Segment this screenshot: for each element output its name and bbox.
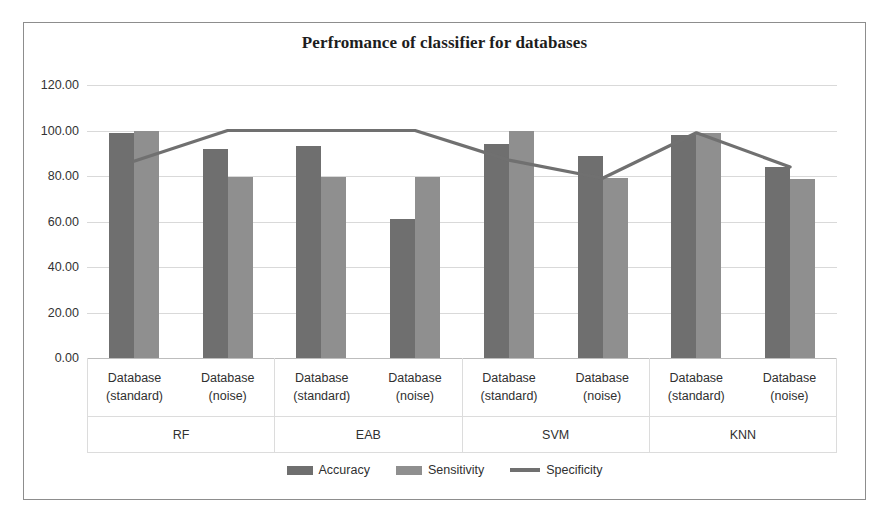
y-axis-tick-label: 100.00 [25,124,87,138]
legend-item-sensitivity[interactable]: Sensitivity [396,463,484,477]
category-label-line1: Database [670,369,724,387]
category-axis: Database(standard)Database(noise)RFDatab… [87,358,837,453]
legend-bar-swatch-dark-icon [287,466,313,475]
category-label: Database(noise) [181,358,274,416]
category-group-rf: Database(standard)Database(noise)RF [88,358,275,452]
category-label: Database(noise) [368,358,461,416]
category-label: Database(noise) [743,358,836,416]
y-axis-tick-label: 20.00 [25,306,87,320]
legend-item-accuracy[interactable]: Accuracy [287,463,370,477]
legend-label: Accuracy [319,463,370,477]
category-label-line1: Database [201,369,255,387]
category-label: Database(standard) [88,358,181,416]
specificity-line-layer [87,85,837,358]
chart-legend: AccuracySensitivitySpecificity [24,463,865,477]
category-label-line1: Database [763,369,817,387]
category-label-line1: Database [575,369,629,387]
category-label-line2: (noise) [396,387,434,405]
y-axis-tick-label: 60.00 [25,215,87,229]
y-axis-tick-labels: 120.00100.0080.0060.0040.0020.000.00 [24,85,87,358]
category-label-line2: (standard) [293,387,350,405]
category-label: Database(noise) [556,358,649,416]
category-group-knn: Database(standard)Database(noise)KNN [650,358,836,452]
category-label-line2: (noise) [770,387,808,405]
legend-label: Specificity [546,463,602,477]
group-label: KNN [650,416,836,452]
category-label: Database(standard) [463,358,556,416]
database-label-row: Database(standard)Database(noise) [463,358,649,416]
category-label-line2: (noise) [583,387,621,405]
database-label-row: Database(standard)Database(noise) [275,358,461,416]
legend-bar-swatch-light-icon [396,466,422,475]
y-axis-tick-label: 0.00 [25,351,87,365]
group-label: EAB [275,416,461,452]
category-group-eab: Database(standard)Database(noise)EAB [275,358,462,452]
legend-item-specificity[interactable]: Specificity [510,463,602,477]
category-label-line1: Database [295,369,349,387]
y-axis-tick-label: 80.00 [25,169,87,183]
category-label-line2: (noise) [209,387,247,405]
y-axis-tick-label: 120.00 [25,78,87,92]
chart-frame: Perfromance of classifier for databases … [23,22,866,500]
category-label-line1: Database [108,369,162,387]
category-label-line1: Database [388,369,442,387]
database-label-row: Database(standard)Database(noise) [88,358,274,416]
legend-line-swatch-icon [510,468,540,472]
database-label-row: Database(standard)Database(noise) [650,358,836,416]
category-label: Database(standard) [650,358,743,416]
legend-label: Sensitivity [428,463,484,477]
category-group-svm: Database(standard)Database(noise)SVM [463,358,650,452]
specificity-line [134,131,790,179]
group-label: RF [88,416,274,452]
chart-title: Perfromance of classifier for databases [24,33,865,53]
category-label-line2: (standard) [106,387,163,405]
plot-area [87,85,837,358]
category-label: Database(standard) [275,358,368,416]
category-label-line2: (standard) [668,387,725,405]
group-label: SVM [463,416,649,452]
y-axis-tick-label: 40.00 [25,260,87,274]
category-label-line2: (standard) [481,387,538,405]
category-label-line1: Database [482,369,536,387]
